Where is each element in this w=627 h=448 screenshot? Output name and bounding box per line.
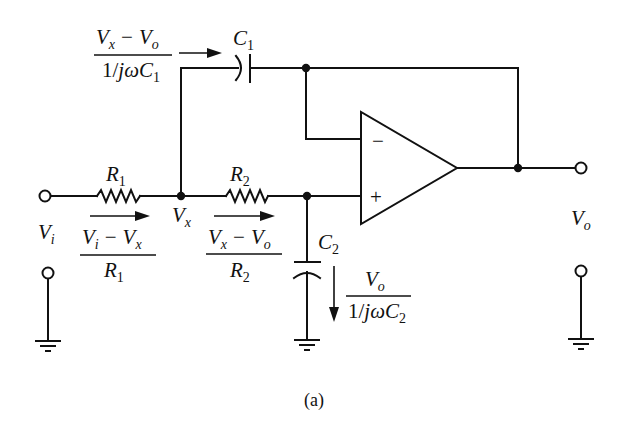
arrowhead-icon	[207, 48, 222, 58]
label-r2: R2	[229, 162, 250, 189]
current-expression-r1: Vi−Vx R1	[80, 211, 156, 285]
junction-dot	[302, 64, 310, 72]
svg-text:Vi−Vx: Vi−Vx	[82, 225, 142, 252]
current-expression-r2: Vx−Vo R2	[206, 211, 282, 285]
svg-text:R1: R1	[103, 258, 124, 285]
figure-caption: (a)	[304, 390, 324, 411]
label-c2: C2	[318, 230, 339, 257]
svg-text:1/jωC2: 1/jωC2	[348, 299, 406, 326]
label-vx: Vx	[172, 203, 192, 230]
svg-text:Vx−Vo: Vx−Vo	[96, 25, 159, 52]
output-ground-terminal	[576, 266, 587, 277]
svg-text:Vo: Vo	[365, 267, 385, 294]
opamp-plus-sign: +	[370, 185, 382, 209]
input-terminal-vi	[40, 191, 51, 202]
label-vi: Vi	[38, 220, 55, 247]
resistor-r1	[97, 190, 140, 202]
arrowhead-icon	[260, 211, 275, 221]
input-ground-terminal	[43, 268, 54, 279]
opamp-minus-sign: −	[372, 129, 384, 153]
output-terminal-vo	[576, 163, 587, 174]
label-r1: R1	[105, 162, 126, 189]
resistor-r2	[226, 190, 268, 202]
label-c1: C1	[233, 26, 254, 53]
ground-icon	[295, 340, 319, 350]
current-expression-c2: Vo 1/jωC2	[329, 266, 411, 326]
svg-text:Vx−Vo: Vx−Vo	[208, 225, 271, 252]
svg-text:R2: R2	[229, 258, 250, 285]
junction-dot-vo	[514, 164, 522, 172]
ground-icon	[569, 339, 593, 349]
ground-icon	[36, 341, 60, 351]
label-vo: Vo	[571, 206, 591, 233]
svg-text:1/jωC1: 1/jωC1	[102, 58, 160, 85]
current-expression-c1: Vx−Vo 1/jωC1	[94, 25, 222, 85]
arrowhead-icon	[135, 211, 150, 221]
circuit-diagram: − + R1 R2 C1 C2	[0, 0, 627, 448]
junction-dot-vx	[177, 192, 185, 200]
junction-dot	[303, 192, 311, 200]
arrowhead-icon	[329, 307, 339, 322]
